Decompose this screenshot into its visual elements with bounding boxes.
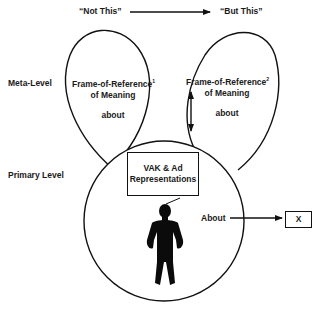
about-label: About — [201, 213, 226, 223]
left-frame-subtitle: of Meaning — [91, 90, 136, 100]
right-frame-title: Frame-of-Reference2 — [186, 77, 269, 87]
vak-line2: Representations — [130, 174, 197, 185]
meta-level-label: Meta-Level — [8, 78, 52, 88]
left-frame-about: about — [101, 110, 124, 120]
vak-representations-box: VAK & Ad Representations — [127, 152, 199, 196]
left-frame-title: Frame-of-Reference1 — [72, 79, 155, 89]
primary-level-label: Primary Level — [8, 170, 64, 180]
but-this-label: “But This” — [220, 6, 263, 16]
vak-line1: VAK & Ad — [143, 163, 182, 174]
not-this-label: “Not This” — [79, 6, 122, 16]
x-target-label: X — [296, 214, 302, 225]
right-frame-subtitle: of Meaning — [205, 88, 250, 98]
right-frame-about: about — [215, 108, 238, 118]
x-target-box: X — [285, 211, 312, 228]
